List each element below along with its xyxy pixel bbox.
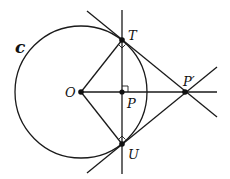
segment-OU	[81, 92, 122, 144]
point-P	[119, 89, 124, 94]
point-U	[119, 141, 125, 147]
label-T: T	[128, 28, 138, 43]
label-circle-c: c	[15, 37, 26, 57]
label-O: O	[65, 85, 76, 100]
geometry-diagram: c O P T U P′	[0, 0, 230, 179]
label-U: U	[128, 147, 140, 162]
point-O	[78, 89, 84, 95]
tangent-line-T	[87, 11, 217, 117]
label-P: P	[126, 96, 136, 111]
label-Pprime: P′	[182, 74, 195, 89]
point-T	[119, 37, 125, 43]
point-Pprime	[182, 89, 188, 95]
segment-OT	[81, 40, 122, 92]
tangent-line-U	[87, 67, 217, 173]
